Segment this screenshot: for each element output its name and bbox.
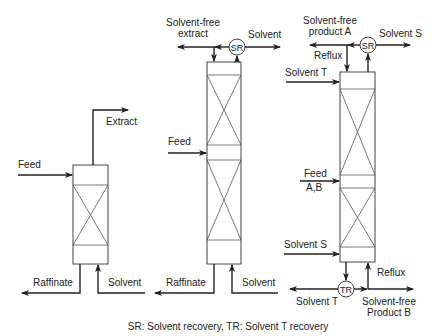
tr-label: TR — [340, 285, 352, 295]
solvent-s-bottom-label: Solvent S — [284, 239, 327, 250]
product-b-label-2: Product B — [367, 307, 411, 318]
feed-label-2: A,B — [306, 182, 322, 193]
solvent-t-top-label: Solvent T — [285, 67, 327, 78]
solvent-free-extract-label-1: Solvent-free — [166, 17, 220, 28]
legend-caption: SR: Solvent recovery, TR: Solvent T reco… — [128, 321, 328, 332]
solvent-label: Solvent — [108, 277, 142, 288]
solvent-t-bottom-label: Solvent T — [296, 296, 338, 307]
feed-label: Feed — [18, 159, 41, 170]
raffinate-label: Raffinate — [166, 277, 206, 288]
reflux-bottom-label: Reflux — [377, 267, 405, 278]
column-fractional-extractor: SR Solvent-free product A Solvent S Refl… — [284, 15, 422, 318]
product-a-label-2: product A — [309, 26, 352, 37]
column-2-shell — [207, 62, 241, 264]
product-b-label-1: Solvent-free — [362, 296, 416, 307]
solvent-s-top-label: Solvent S — [379, 28, 422, 39]
feed-label-1: Feed — [304, 168, 327, 179]
sr-label: SR — [362, 41, 375, 51]
feed-label: Feed — [168, 136, 191, 147]
solvent-free-extract-label-2: extract — [178, 28, 208, 39]
solvent-top-label: Solvent — [248, 29, 282, 40]
product-a-label-1: Solvent-free — [303, 15, 357, 26]
extraction-diagram: Feed Extract Raffinate Solvent SR Solven… — [0, 0, 432, 336]
reflux-top-label: Reflux — [314, 50, 342, 61]
raffinate-label: Raffinate — [33, 277, 73, 288]
extract-label: Extract — [106, 116, 137, 127]
column-extractor-with-reflux: SR Solvent-free extract Solvent Feed Raf… — [155, 17, 282, 293]
column-simple-extractor: Feed Extract Raffinate Solvent — [18, 110, 145, 293]
sr-label: SR — [231, 43, 244, 53]
column-3-shell — [340, 72, 375, 262]
solvent-bottom-label: Solvent — [242, 277, 276, 288]
